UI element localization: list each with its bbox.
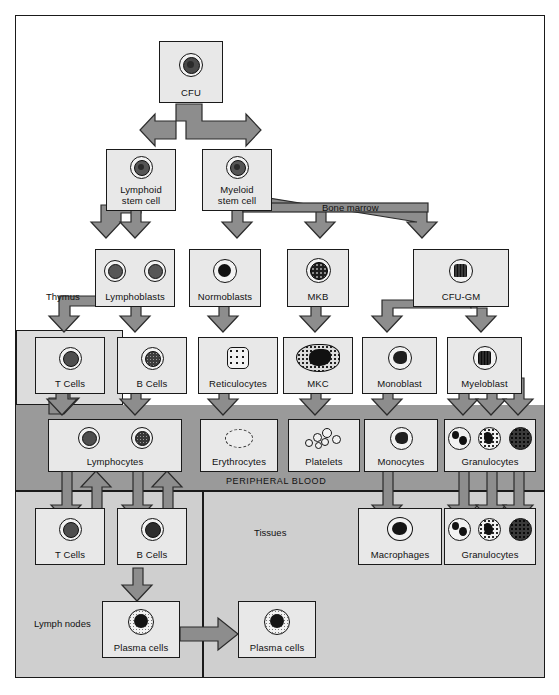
- node-cfu[interactable]: CFU: [159, 41, 223, 103]
- monocyte-icon: [390, 427, 413, 450]
- eosinophil-icon: [478, 518, 501, 541]
- node-myeloblast[interactable]: Myeloblast: [447, 337, 522, 394]
- cfu-glyphs: [160, 42, 222, 88]
- normoblast-icon: [213, 259, 237, 283]
- lymphoblast-glyphs: [96, 250, 174, 292]
- node-label: MKC: [307, 379, 328, 394]
- b-cell-icon: [141, 347, 164, 370]
- node-myeloid-stem-cell[interactable]: Myeloidstem cell: [202, 149, 272, 211]
- node-label: Plasma cells: [114, 643, 169, 658]
- node-plasma-cells-lymph[interactable]: Plasma cells: [102, 601, 180, 658]
- plasma-cell-icon: [128, 609, 154, 635]
- node-erythrocytes[interactable]: Erythrocytes: [200, 419, 278, 472]
- macrophage-icon: [387, 517, 413, 541]
- granulocyte-glyphs: [445, 420, 535, 457]
- node-macrophages[interactable]: Macrophages: [358, 508, 442, 565]
- stem-cell-icon: [226, 156, 249, 179]
- monocyte-glyphs: [365, 420, 437, 457]
- lymphoblast-icon: [144, 260, 166, 282]
- node-label: Monocytes: [378, 457, 425, 472]
- mkb-glyphs: [288, 250, 348, 292]
- reticulocyte-icon: [227, 347, 249, 369]
- node-label: Granulocytes: [461, 457, 518, 472]
- label-bone-marrow: Bone marrow: [322, 202, 379, 213]
- node-label: CFU-GM: [442, 292, 481, 307]
- node-lymphoid-stem-cell[interactable]: Lymphoidstem cell: [106, 149, 176, 211]
- platelets-icon: [304, 427, 344, 449]
- node-label: Plasma cells: [250, 643, 305, 658]
- node-label: CFU: [181, 88, 201, 103]
- node-platelets[interactable]: Platelets: [288, 419, 360, 472]
- node-label: MKB: [308, 292, 329, 307]
- node-label: Lymphoidstem cell: [120, 185, 162, 210]
- erythrocyte-icon: [225, 429, 253, 448]
- node-granulocytes-tissue[interactable]: Granulocytes: [444, 508, 536, 565]
- t-cell-glyphs: [36, 338, 104, 379]
- node-label: Lymphocytes: [87, 457, 144, 472]
- label-lymph-nodes: Lymph nodes: [34, 618, 91, 629]
- hematopoiesis-diagram: CFU Lymphoidstem cell Myeloidstem cell: [0, 0, 559, 695]
- lymphoblast-icon: [104, 260, 126, 282]
- node-label: Monoblast: [377, 379, 422, 394]
- plasma-cell-icon: [264, 609, 290, 635]
- stem-cell-icon: [179, 53, 203, 77]
- normoblast-glyphs: [190, 250, 260, 292]
- node-label: T Cells: [55, 379, 85, 394]
- node-cfu-gm[interactable]: CFU-GM: [413, 249, 509, 307]
- monoblast-glyphs: [363, 338, 436, 379]
- node-label: Macrophages: [371, 550, 430, 565]
- node-label: Myeloblast: [461, 379, 507, 394]
- node-normoblasts[interactable]: Normoblasts: [189, 249, 261, 307]
- lymphoid-stem-glyphs: [107, 150, 175, 185]
- t-cell-icon: [78, 427, 100, 449]
- myeloblast-glyphs: [448, 338, 521, 379]
- node-label: Granulocytes: [461, 550, 518, 565]
- node-reticulocytes[interactable]: Reticulocytes: [198, 337, 278, 394]
- node-granulocytes-blood[interactable]: Granulocytes: [444, 419, 536, 472]
- node-label: Erythrocytes: [212, 457, 266, 472]
- node-t-cells-marrow[interactable]: T Cells: [35, 337, 105, 394]
- neutrophil-icon: [448, 427, 471, 450]
- node-monocytes[interactable]: Monocytes: [364, 419, 438, 472]
- monoblast-icon: [388, 346, 412, 370]
- node-t-cells-lymph[interactable]: T Cells: [35, 508, 105, 565]
- basophil-icon: [509, 518, 532, 541]
- lymphocyte-glyphs: [49, 420, 181, 457]
- label-thymus: Thymus: [46, 291, 80, 302]
- node-mkc[interactable]: MKC: [283, 337, 353, 394]
- node-label: B Cells: [137, 550, 168, 565]
- megakaryoblast-icon: [306, 258, 331, 283]
- granulocyte-glyphs: [445, 509, 535, 550]
- b-cell-icon: [131, 427, 153, 449]
- macrophage-glyphs: [359, 509, 441, 550]
- label-peripheral-blood: PERIPHERAL BLOOD: [226, 476, 326, 486]
- node-b-cells-marrow[interactable]: B Cells: [117, 337, 187, 394]
- mkc-glyphs: [284, 338, 352, 379]
- erythrocyte-glyphs: [201, 420, 277, 457]
- node-label: Normoblasts: [198, 292, 252, 307]
- plasma-cell-glyphs: [103, 602, 179, 643]
- node-mkb[interactable]: MKB: [287, 249, 349, 307]
- cfu-gm-glyphs: [414, 250, 508, 292]
- node-lymphocytes[interactable]: Lymphocytes: [48, 419, 182, 472]
- cfu-gm-cell-icon: [449, 259, 473, 283]
- t-cell-icon: [59, 518, 82, 541]
- platelet-glyphs: [289, 420, 359, 457]
- b-cell-glyphs: [118, 338, 186, 379]
- stem-cell-icon: [130, 156, 153, 179]
- node-plasma-cells-tissue[interactable]: Plasma cells: [238, 601, 316, 658]
- node-label: T Cells: [55, 550, 85, 565]
- node-label: Platelets: [305, 457, 342, 472]
- b-cell-icon: [141, 518, 164, 541]
- node-monoblast[interactable]: Monoblast: [362, 337, 437, 394]
- basophil-icon: [509, 427, 532, 450]
- node-lymphoblasts[interactable]: Lymphoblasts: [95, 249, 175, 307]
- reticulocyte-glyphs: [199, 338, 277, 379]
- label-tissues: Tissues: [254, 527, 286, 538]
- t-cell-glyphs: [36, 509, 104, 550]
- node-label: B Cells: [137, 379, 168, 394]
- node-b-cells-lymph[interactable]: B Cells: [117, 508, 187, 565]
- plasma-cell-glyphs: [239, 602, 315, 643]
- neutrophil-icon: [448, 518, 471, 541]
- node-label: Lymphoblasts: [105, 292, 164, 307]
